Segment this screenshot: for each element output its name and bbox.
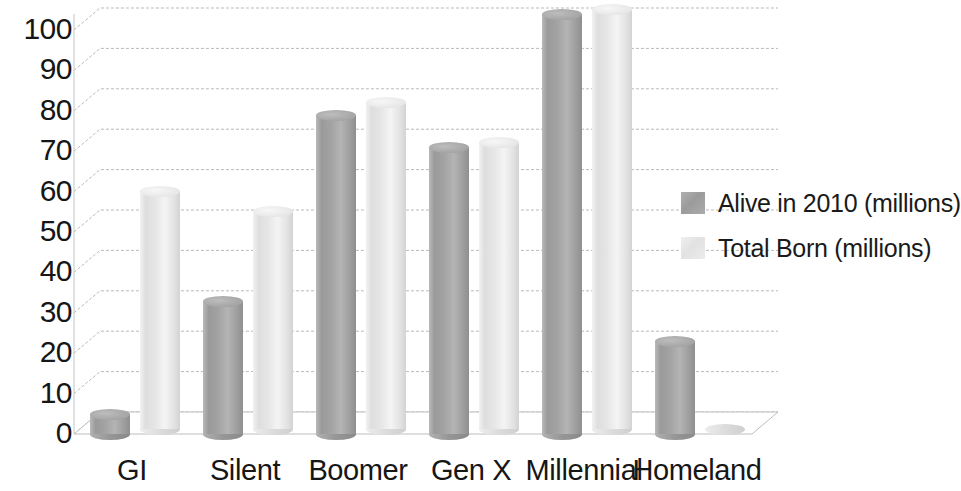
bar-group-silent <box>189 0 302 470</box>
legend-label-alive-2010: Alive in 2010 (millions) <box>718 189 961 217</box>
bar-cylinder-body <box>542 14 582 434</box>
bar-cap-ellipse <box>140 186 180 197</box>
bar-cylinder-body <box>366 102 406 429</box>
bar-homeland-alive-2010 <box>655 341 695 434</box>
bar-gen-x-total-born <box>479 142 519 429</box>
y-tick-label-30: 30 <box>0 297 72 327</box>
bar-silent-total-born <box>253 211 293 429</box>
bar-group-millennial <box>528 0 641 470</box>
bar-cylinder-body <box>592 9 632 429</box>
bar-cylinder-body <box>203 301 243 434</box>
bar-boomer-alive-2010 <box>316 115 356 434</box>
y-tick-label-60: 60 <box>0 176 72 206</box>
bar-group-boomer <box>302 0 415 470</box>
bar-homeland-total-born <box>705 425 745 429</box>
y-tick-label-20: 20 <box>0 337 72 367</box>
bar-silent-alive-2010 <box>203 301 243 434</box>
bar-cylinder-body <box>429 147 469 434</box>
bar-gi-alive-2010 <box>90 414 130 434</box>
bar-cap-ellipse <box>203 296 243 307</box>
bar-millennial-total-born <box>592 9 632 429</box>
legend-item-total-born: Total Born (millions) <box>681 225 951 270</box>
bar-boomer-total-born <box>366 102 406 429</box>
bar-millennial-alive-2010 <box>542 14 582 434</box>
bar-cylinder-body <box>316 115 356 434</box>
bar-cap-ellipse <box>90 409 130 420</box>
legend-label-total-born: Total Born (millions) <box>718 234 931 262</box>
bar-group-gen-x <box>415 0 528 470</box>
bar-gi-total-born <box>140 191 180 429</box>
y-tick-label-40: 40 <box>0 256 72 286</box>
bar-cylinder-body <box>479 142 519 429</box>
x-tick-label-homeland: Homeland <box>607 452 787 488</box>
y-axis: 0102030405060708090100 <box>0 0 72 491</box>
x-axis: GISilentBoomerGen XMillennialHomeland <box>0 452 951 491</box>
bar-cylinder-body <box>253 211 293 429</box>
y-tick-label-80: 80 <box>0 95 72 125</box>
bar-group-gi <box>76 0 189 470</box>
chart-legend: Alive in 2010 (millions) Total Born (mil… <box>681 180 951 270</box>
bar-cylinder-body <box>140 191 180 429</box>
bar-cylinder-body <box>655 341 695 434</box>
bar-cap-ellipse <box>366 97 406 108</box>
y-tick-label-50: 50 <box>0 216 72 246</box>
y-tick-label-0: 0 <box>0 418 72 448</box>
legend-swatch-icon-total-born <box>681 237 705 259</box>
legend-item-alive-2010: Alive in 2010 (millions) <box>681 180 951 225</box>
bar-cap-ellipse <box>253 206 293 217</box>
legend-swatch-icon-alive-2010 <box>681 192 705 214</box>
y-tick-label-100: 100 <box>0 14 72 44</box>
y-tick-label-70: 70 <box>0 135 72 165</box>
bar-cap-ellipse <box>592 4 632 15</box>
bar-cap-ellipse <box>316 110 356 121</box>
bar-gen-x-alive-2010 <box>429 147 469 434</box>
bar-cap-ellipse <box>542 9 582 20</box>
y-tick-label-10: 10 <box>0 378 72 408</box>
y-tick-label-90: 90 <box>0 54 72 84</box>
bar-base-ellipse <box>705 424 745 435</box>
